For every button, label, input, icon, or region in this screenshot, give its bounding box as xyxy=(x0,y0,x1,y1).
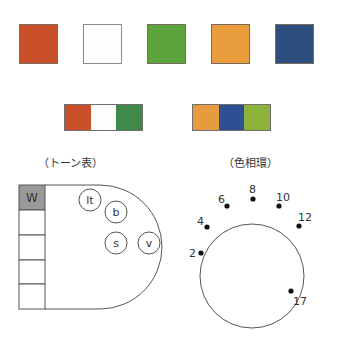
hue-point-8 xyxy=(250,196,255,201)
tone-label: lt xyxy=(86,194,94,207)
hue-point-label: 10 xyxy=(276,191,290,204)
hue-point-12 xyxy=(296,223,301,228)
tone-label: v xyxy=(146,237,153,250)
hue-point-2 xyxy=(198,250,203,255)
tone-column-cell xyxy=(19,210,45,235)
hue-point-label: 4 xyxy=(197,215,204,228)
hue-point-17 xyxy=(288,288,293,293)
tone-chart: W ltbsv xyxy=(19,185,162,309)
tone-column-top-label: W xyxy=(26,191,38,205)
hue-point-label: 17 xyxy=(293,295,307,308)
tone-column-cell xyxy=(19,260,45,284)
hue-circle-ring xyxy=(200,224,304,328)
tone-label: b xyxy=(113,206,120,219)
hue-circle: 2468101217 xyxy=(189,183,312,328)
tone-column-cell xyxy=(19,284,45,309)
diagrams: W ltbsv 2468101217 xyxy=(0,0,337,337)
hue-point-6 xyxy=(224,203,229,208)
hue-point-label: 6 xyxy=(218,193,225,206)
hue-point-label: 12 xyxy=(298,211,312,224)
hue-point-label: 2 xyxy=(189,247,196,260)
tone-column-cell xyxy=(19,235,45,260)
hue-point-4 xyxy=(204,224,209,229)
hue-point-10 xyxy=(276,203,281,208)
hue-point-label: 8 xyxy=(249,183,256,196)
tone-label: s xyxy=(113,237,119,250)
